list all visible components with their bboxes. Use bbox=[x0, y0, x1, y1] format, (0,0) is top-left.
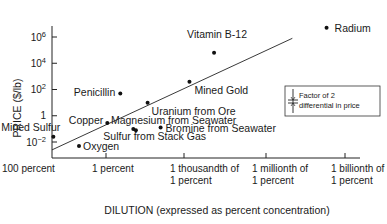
chart: 10−21102104106 100 percent1 percent1 tho… bbox=[0, 0, 387, 224]
point-radium bbox=[325, 26, 329, 30]
x-tick-label: 1 percent bbox=[252, 175, 294, 186]
point-label-uranium-from-ore: Uranium from Ore bbox=[152, 105, 236, 117]
point-vitamin-b-12 bbox=[212, 51, 216, 55]
legend-text: differential in price bbox=[299, 101, 360, 110]
x-tick-label: 1 percent bbox=[331, 175, 373, 186]
point-oxygen bbox=[77, 144, 81, 148]
y-tick-label: 1 bbox=[40, 110, 46, 121]
legend: Factor of 2differential in price bbox=[285, 86, 380, 116]
y-tick-label: 102 bbox=[31, 82, 46, 95]
point-copper bbox=[105, 121, 109, 125]
x-axis-title: DILUTION (expressed as percent concentra… bbox=[104, 204, 329, 216]
point-label-penicillin: Penicillin bbox=[74, 86, 116, 98]
point-mined-gold bbox=[187, 80, 191, 84]
y-tick-label: 106 bbox=[31, 30, 46, 43]
y-axis-title: PRICE ($/lb) bbox=[11, 79, 23, 138]
x-tick-label: 100 percent bbox=[2, 163, 55, 174]
point-uranium-from-ore bbox=[146, 101, 150, 105]
point-label-bromine-from-seawater: Bromine from Seawater bbox=[166, 122, 277, 134]
x-tick-label: 1 millionth of bbox=[252, 163, 308, 174]
y-tick-label: 104 bbox=[31, 56, 46, 69]
point-label-radium: Radium bbox=[335, 22, 371, 34]
point-magnesium-from-seawater bbox=[134, 128, 138, 132]
point-penicillin bbox=[118, 91, 122, 95]
point-label-mined-gold: Mined Gold bbox=[194, 84, 248, 96]
legend-text: Factor of 2 bbox=[299, 91, 335, 100]
point-bromine-from-seawater bbox=[159, 126, 163, 130]
point-mined-sulfur bbox=[51, 135, 55, 139]
point-label-copper: Copper bbox=[69, 114, 104, 126]
y-tick-label: 10−2 bbox=[26, 135, 46, 148]
x-tick-label: 1 billionth of bbox=[331, 163, 385, 174]
x-tick-label: 1 percent bbox=[170, 175, 212, 186]
x-tick-label: 1 percent bbox=[92, 163, 134, 174]
point-label-vitamin-b-12: Vitamin B-12 bbox=[187, 28, 247, 40]
x-tick-label: 1 thousandth of bbox=[170, 163, 239, 174]
